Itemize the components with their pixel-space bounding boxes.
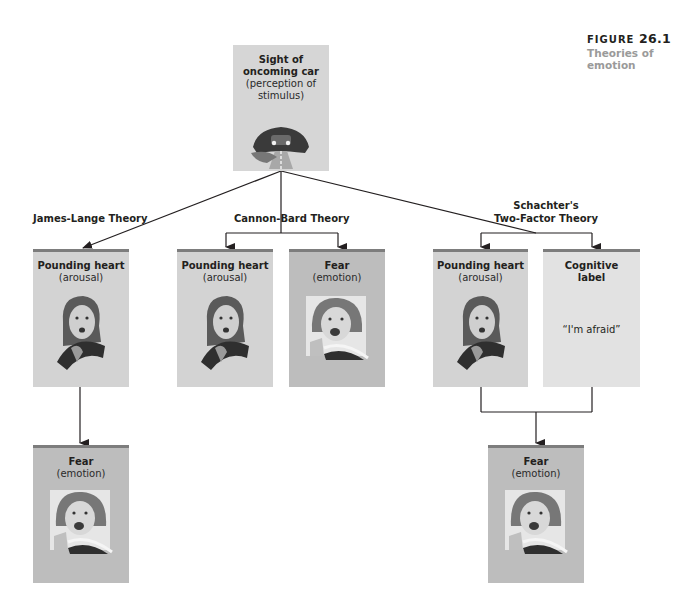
cannon-bard-arousal-box: Pounding heart (arousal) <box>177 249 273 387</box>
box-subtitle: (emotion) <box>488 468 584 480</box>
james-lange-arousal-box: Pounding heart (arousal) <box>33 249 129 387</box>
screaming-face-icon <box>304 292 372 362</box>
box-subtitle: (emotion) <box>289 272 385 284</box>
startled-face-icon <box>53 292 111 372</box>
cognitive-label-quote: “I'm afraid” <box>543 324 640 335</box>
schachter-label-line1: Schachter's <box>494 199 598 212</box>
box-title: Fear <box>488 456 584 468</box>
schachter-arousal-box: Pounding heart (arousal) <box>433 249 528 387</box>
screaming-face-icon <box>503 486 571 556</box>
box-title-line2: label <box>543 272 640 284</box>
stimulus-title: Sight of oncoming car <box>233 54 329 78</box>
box-title: Fear <box>33 456 129 468</box>
box-subtitle: (arousal) <box>433 272 528 284</box>
box-title: Pounding heart <box>177 260 273 272</box>
startled-face-icon <box>197 292 255 372</box>
schachter-label: Schachter's Two-Factor Theory <box>494 199 598 225</box>
box-subtitle: (arousal) <box>33 272 129 284</box>
startled-face-icon <box>453 292 511 372</box>
box-subtitle: (arousal) <box>177 272 273 284</box>
box-title: Pounding heart <box>33 260 129 272</box>
schachter-label-line2: Two-Factor Theory <box>494 212 598 225</box>
stimulus-box: Sight of oncoming car (perception of sti… <box>233 45 329 171</box>
box-title: Cognitive label <box>543 260 640 284</box>
cannon-bard-fear-box: Fear (emotion) <box>289 249 385 387</box>
james-lange-fear-box: Fear (emotion) <box>33 445 129 583</box>
car-headlights-icon <box>247 123 315 169</box>
box-title-line1: Cognitive <box>543 260 640 272</box>
stimulus-subtitle: (perception of stimulus) <box>233 78 329 102</box>
box-subtitle: (emotion) <box>33 468 129 480</box>
box-title: Pounding heart <box>433 260 528 272</box>
james-lange-label: James-Lange Theory <box>33 212 147 225</box>
screaming-face-icon <box>48 486 116 556</box>
schachter-fear-box: Fear (emotion) <box>488 445 584 583</box>
schachter-cognitive-label-box: Cognitive label “I'm afraid” <box>543 249 640 387</box>
cannon-bard-label: Cannon-Bard Theory <box>234 212 349 225</box>
box-title: Fear <box>289 260 385 272</box>
